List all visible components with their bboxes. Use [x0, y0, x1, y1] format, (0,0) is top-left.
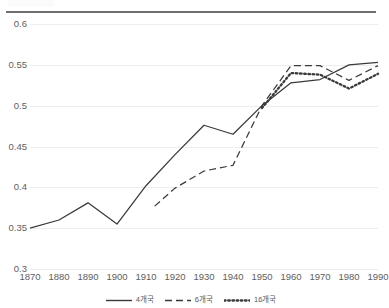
y-axis-tick-label: 0.5 [14, 101, 27, 111]
series-lines [30, 24, 378, 269]
legend-label: 6개국 [195, 296, 213, 304]
x-axis-tick-label: 1980 [338, 272, 359, 282]
legend-item[interactable]: 4개국 [106, 296, 154, 304]
y-axis-labels: 0.30.350.40.450.50.550.6 [0, 24, 27, 269]
x-axis-tick-label: 1960 [280, 272, 301, 282]
legend-label: 4개국 [136, 296, 154, 304]
x-axis-tick-label: 1920 [164, 272, 185, 282]
y-axis-tick-label: 0.45 [9, 142, 28, 152]
series-line-16개국 [262, 73, 378, 108]
x-axis-tick-label: 1950 [251, 272, 272, 282]
y-axis-tick-label: 0.55 [9, 60, 28, 70]
y-axis-tick-label: 0.6 [14, 19, 27, 29]
x-axis-labels: 1870188018901900191019201930194019501960… [30, 272, 378, 286]
y-axis-tick-label: 0.4 [14, 182, 27, 192]
legend-label: 16개국 [254, 296, 276, 304]
x-axis-tick-label: 1880 [48, 272, 69, 282]
legend-swatch-dashed [165, 297, 191, 304]
x-axis-tick-label: 1870 [19, 272, 40, 282]
series-line-4개국 [30, 62, 378, 228]
legend-swatch-dotted [224, 297, 250, 304]
legend-item[interactable]: 16개국 [224, 296, 276, 304]
x-axis-tick-label: 1890 [77, 272, 98, 282]
x-axis-tick-label: 1970 [309, 272, 330, 282]
y-axis-tick-label: 0.35 [9, 223, 28, 233]
legend-item[interactable]: 6개국 [165, 296, 213, 304]
top-divider-rule [6, 11, 376, 13]
gridline [30, 269, 378, 270]
x-axis-tick-label: 1910 [135, 272, 156, 282]
x-axis-tick-label: 1940 [222, 272, 243, 282]
chart-legend: 4개국6개국16개국 [0, 292, 382, 308]
cropped-header-remnant [8, 0, 54, 7]
x-axis-tick-label: 1900 [106, 272, 127, 282]
plot-area [30, 24, 378, 269]
x-axis-tick-label: 1990 [367, 272, 388, 282]
x-axis-tick-label: 1930 [193, 272, 214, 282]
legend-swatch-solid [106, 297, 132, 304]
